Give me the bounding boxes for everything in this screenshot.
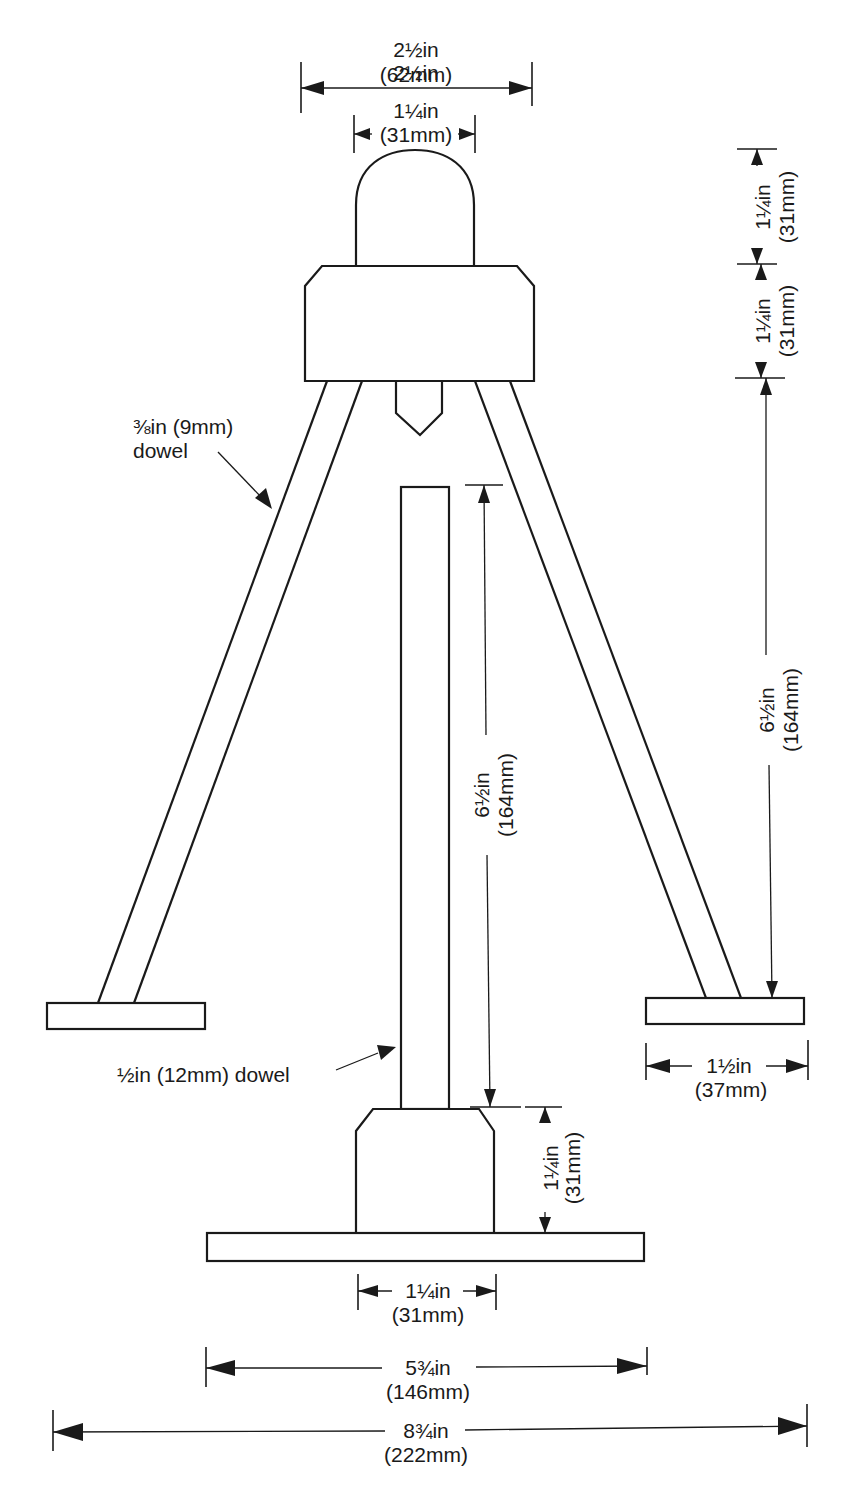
dim-foot-width-metric: (37mm): [695, 1078, 767, 1101]
left-leg-edge: [98, 381, 327, 1003]
dim-base-block-height-imperial: 1¼in: [539, 1145, 562, 1191]
center-dowel-leader-arrow: [336, 1045, 396, 1070]
dim-overall-width-imperial: 8¾in: [403, 1419, 449, 1442]
dim-base-block-width-metric: (31mm): [392, 1303, 464, 1326]
leg-dowel-leader-arrow: [218, 452, 272, 509]
right-leg-edge: [475, 381, 706, 998]
dome-cap: [356, 150, 474, 267]
center-dowel-label: ½in (12mm) dowel: [117, 1063, 290, 1086]
dim-right-stack: [735, 149, 785, 998]
dim-base-block-width-imperial: 1¼in: [405, 1279, 451, 1302]
base-block: [356, 1109, 494, 1233]
right-leg-edge: [510, 381, 741, 998]
dim-overall-width-metric: (222mm): [384, 1443, 468, 1466]
dim-top-block-width-metric-label: (62mm): [380, 63, 452, 86]
conical-point: [396, 381, 442, 435]
left-leg-edge: [134, 381, 362, 1003]
left-foot: [47, 1003, 205, 1029]
leg-dowel-label-line2: dowel: [133, 439, 188, 462]
dim-leg-height-imperial: 6½in: [755, 687, 778, 733]
dim-block-height-imperial: 1¼in: [751, 298, 774, 344]
dim-dome-height-imperial: 1¼in: [751, 184, 774, 230]
dim-base-plate-width-metric: (146mm): [386, 1380, 470, 1403]
dim-leg-height-metric: (164mm): [779, 668, 802, 752]
dim-base-block-height-metric: (31mm): [561, 1132, 584, 1204]
leg-dowel-label-line1: ⅜in (9mm): [133, 415, 233, 438]
right-foot: [646, 998, 804, 1024]
dim-base-plate-width-imperial: 5¾in: [405, 1356, 451, 1379]
top-assembly: [305, 150, 534, 435]
center-dowel: [401, 487, 449, 1109]
top-block: [305, 266, 534, 381]
dim-top-block-width-imperial-label: 2½in: [393, 38, 439, 61]
dim-dome-height-metric: (31mm): [775, 171, 798, 243]
dim-block-height-metric: (31mm): [775, 285, 798, 357]
dim-dome-width-imperial: 1¼in: [393, 99, 439, 122]
dowel-stand-diagram: 2½in 2½in (62mm) 1¼in (31mm) 1¼in (31: [0, 0, 851, 1492]
dim-foot-width-imperial: 1½in: [706, 1054, 752, 1077]
dim-dome-width-metric: (31mm): [380, 123, 452, 146]
dim-center-dowel-imperial: 6½in: [470, 772, 493, 818]
base-plate: [207, 1233, 644, 1261]
dim-center-dowel-metric: (164mm): [494, 753, 517, 837]
